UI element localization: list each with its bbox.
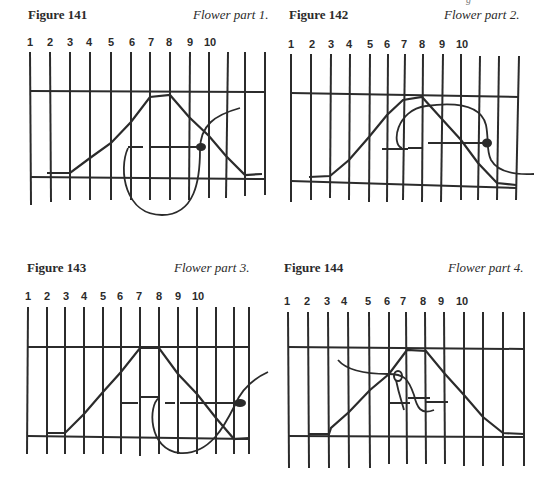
string-figure-diagram xyxy=(276,0,552,240)
figure-141: Figure 141 Flower part 1. 1 2 3 4 5 6 7 … xyxy=(0,0,276,240)
string-figure-diagram xyxy=(0,250,276,482)
string-figure-diagram xyxy=(0,0,276,240)
figure-142: g Figure 142 Flower part 2. 1 2 3 4 5 6 … xyxy=(276,0,552,240)
figure-144: Figure 144 Flower part 4. 1 2 3 4 5 6 7 … xyxy=(276,250,552,482)
string-figure-diagram xyxy=(276,250,552,482)
figure-143: Figure 143 Flower part 3. 1 2 3 4 5 6 7 … xyxy=(0,250,276,482)
